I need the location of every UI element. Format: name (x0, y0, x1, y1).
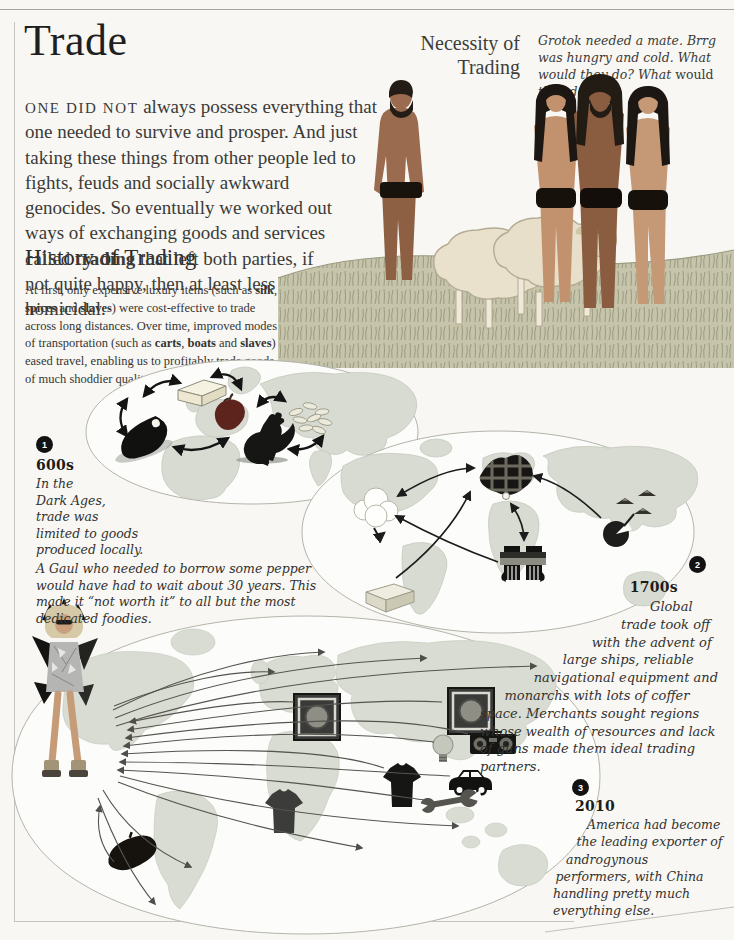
timeline-badge-1: 1 (36, 436, 53, 453)
necessity-heading-line1: Necessity of (360, 31, 520, 55)
top-rule (0, 9, 734, 10)
era1-text: A Gaul who needed to borrow some pepper … (36, 561, 336, 627)
timeline-badge-2: 2 (689, 556, 706, 573)
intro-paragraph: ONE DID NOT always possess everything th… (25, 94, 387, 321)
era3-text: America had become the leading exporter … (553, 816, 723, 920)
guitar-amp-icon (294, 694, 340, 740)
era1-text-narrow: In the Dark Ages, trade was limited to g… (36, 476, 164, 559)
book-page: Trade ONE DID NOT always possess everyth… (0, 0, 734, 940)
era3-year: 2010 (575, 798, 615, 814)
era1-year: 600s (36, 457, 74, 473)
platform-shoes (42, 760, 88, 777)
page-title: Trade (24, 18, 128, 64)
timeline-badge-3: 3 (572, 779, 589, 796)
era2-wrap-spacer (480, 598, 650, 702)
mirror-dress (46, 642, 84, 692)
era2-year: 1700s (478, 579, 678, 595)
era2-text: Global trade took off with the advent of… (480, 598, 722, 776)
